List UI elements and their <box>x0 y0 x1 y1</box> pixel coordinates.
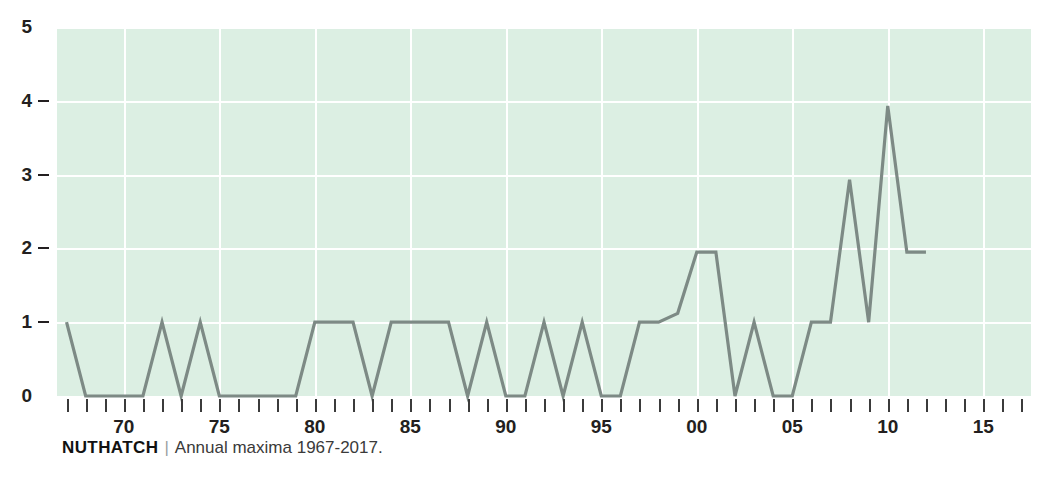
x-axis-tick <box>983 399 985 412</box>
plot-area <box>57 27 1031 396</box>
x-axis-label: 80 <box>304 416 325 438</box>
x-axis-tick <box>487 399 489 412</box>
x-axis-tick <box>697 399 699 412</box>
x-axis-tick <box>181 399 183 412</box>
x-axis-tick <box>86 399 88 412</box>
x-axis-tick <box>124 399 126 412</box>
x-axis-tick <box>678 399 680 412</box>
x-axis-tick <box>601 399 603 412</box>
x-axis-tick <box>334 399 336 412</box>
y-axis-tick <box>38 247 49 249</box>
y-axis-label: 4 <box>21 90 32 112</box>
x-axis-tick <box>353 399 355 412</box>
x-axis-label: 05 <box>782 416 803 438</box>
x-axis-tick <box>429 399 431 412</box>
x-axis-label: 95 <box>591 416 612 438</box>
x-axis-tick <box>143 399 145 412</box>
nuthatch-chart-figure: 012345 70758085909500051015 NUTHATCH|Ann… <box>0 0 1056 486</box>
x-axis-tick <box>888 399 890 412</box>
x-axis-tick <box>258 399 260 412</box>
y-axis-label: 1 <box>21 311 32 333</box>
y-axis-label: 2 <box>21 237 32 259</box>
x-axis-label: 15 <box>973 416 994 438</box>
x-axis-tick <box>563 399 565 412</box>
x-axis-tick <box>238 399 240 412</box>
x-axis-tick <box>639 399 641 412</box>
x-axis-tick <box>296 399 298 412</box>
x-axis-tick <box>525 399 527 412</box>
data-series-line <box>57 27 1031 396</box>
x-axis-tick <box>105 399 107 412</box>
y-axis-tick <box>38 321 49 323</box>
caption-series-name: NUTHATCH <box>62 438 158 457</box>
x-axis-tick <box>372 399 374 412</box>
x-axis-tick <box>773 399 775 412</box>
x-axis-tick <box>449 399 451 412</box>
x-axis: 70758085909500051015 <box>57 396 1031 436</box>
x-axis-tick <box>468 399 470 412</box>
x-axis-tick <box>1002 399 1004 412</box>
x-axis-tick <box>945 399 947 412</box>
x-axis-tick <box>754 399 756 412</box>
x-axis-tick <box>162 399 164 412</box>
x-axis-tick <box>792 399 794 412</box>
x-axis-tick <box>582 399 584 412</box>
x-axis-tick <box>926 399 928 412</box>
x-axis-tick <box>391 399 393 412</box>
x-axis-tick <box>964 399 966 412</box>
caption-separator: | <box>158 438 174 457</box>
x-axis-label: 00 <box>686 416 707 438</box>
x-axis-label: 90 <box>495 416 516 438</box>
x-axis-tick <box>1021 399 1023 412</box>
caption-description: Annual maxima 1967-2017. <box>175 438 383 457</box>
y-axis-tick <box>38 174 49 176</box>
x-axis-tick <box>544 399 546 412</box>
x-axis-tick <box>716 399 718 412</box>
x-axis-tick <box>315 399 317 412</box>
y-axis-label: 3 <box>21 164 32 186</box>
y-axis-tick <box>38 100 49 102</box>
y-axis: 012345 <box>0 0 57 410</box>
x-axis-tick <box>811 399 813 412</box>
x-axis-tick <box>659 399 661 412</box>
x-axis-label: 70 <box>113 416 134 438</box>
x-axis-tick <box>506 399 508 412</box>
x-axis-tick <box>735 399 737 412</box>
x-axis-tick <box>620 399 622 412</box>
x-axis-label: 85 <box>400 416 421 438</box>
x-axis-label: 10 <box>877 416 898 438</box>
x-axis-tick <box>219 399 221 412</box>
x-axis-tick <box>200 399 202 412</box>
x-axis-label: 75 <box>209 416 230 438</box>
x-axis-tick <box>830 399 832 412</box>
x-axis-tick <box>869 399 871 412</box>
x-axis-tick <box>850 399 852 412</box>
x-axis-tick <box>67 399 69 412</box>
y-axis-label: 5 <box>21 16 32 38</box>
chart-caption: NUTHATCH|Annual maxima 1967-2017. <box>62 438 383 458</box>
y-axis-label: 0 <box>21 385 32 407</box>
x-axis-tick <box>907 399 909 412</box>
series-polyline <box>67 106 926 396</box>
x-axis-tick <box>410 399 412 412</box>
x-axis-tick <box>277 399 279 412</box>
